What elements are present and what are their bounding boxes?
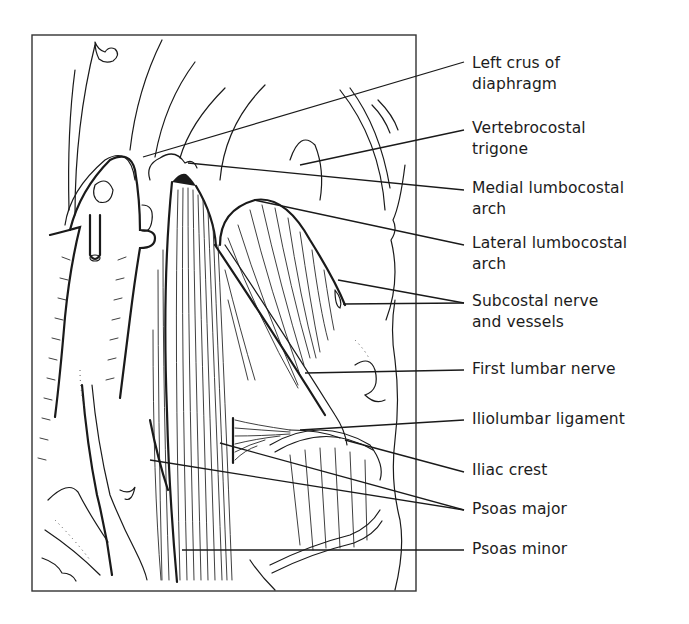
leader-iliac-crest — [345, 440, 464, 472]
leader-first-lumbar-nerve — [305, 370, 464, 373]
leader-iliolumbar-ligament — [300, 420, 464, 430]
label-vertebrocostal-trigone: Vertebrocostal trigone — [472, 118, 586, 160]
label-line: Psoas minor — [472, 539, 567, 560]
leader-lateral-lumbocostal-arch — [254, 200, 464, 245]
drawing — [38, 40, 405, 590]
leader-subcostal-nerve-1 — [338, 280, 464, 303]
label-lateral-lumbocostal-arch: Lateral lumbocostal arch — [472, 233, 627, 275]
label-line: Iliolumbar ligament — [472, 409, 625, 430]
leader-subcostal-nerve-2 — [343, 303, 464, 304]
label-line: trigone — [472, 139, 586, 160]
label-line: Vertebrocostal — [472, 118, 586, 139]
label-line: Subcostal nerve — [472, 291, 598, 312]
label-line: arch — [472, 199, 624, 220]
label-line: Left crus of — [472, 53, 560, 74]
label-left-crus-of-diaphragm: Left crus of diaphragm — [472, 53, 560, 95]
label-line: First lumbar nerve — [472, 359, 616, 380]
label-iliac-crest: Iliac crest — [472, 460, 547, 481]
label-line: arch — [472, 254, 627, 275]
label-line: Lateral lumbocostal — [472, 233, 627, 254]
label-medial-lumbocostal-arch: Medial lumbocostal arch — [472, 178, 624, 220]
leader-medial-lumbocostal-arch — [188, 163, 464, 190]
label-psoas-major: Psoas major — [472, 499, 567, 520]
label-line: and vessels — [472, 312, 598, 333]
quadratus-lumborum-fibres — [215, 200, 347, 446]
leader-vertebrocostal-trigone — [300, 130, 464, 165]
label-iliolumbar-ligament: Iliolumbar ligament — [472, 409, 625, 430]
label-first-lumbar-nerve: First lumbar nerve — [472, 359, 616, 380]
label-psoas-minor: Psoas minor — [472, 539, 567, 560]
label-subcostal-nerve-and-vessels: Subcostal nerve and vessels — [472, 291, 598, 333]
label-line: Iliac crest — [472, 460, 547, 481]
iliolumbar-ligament-fan — [233, 418, 340, 463]
label-line: Psoas major — [472, 499, 567, 520]
label-line: Medial lumbocostal — [472, 178, 624, 199]
label-line: diaphragm — [472, 74, 560, 95]
